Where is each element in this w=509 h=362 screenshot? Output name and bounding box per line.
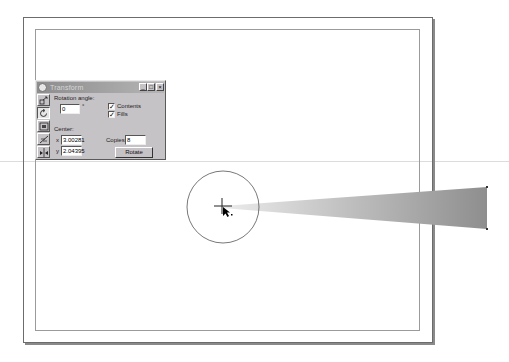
checkmark-icon: ✓: [109, 111, 115, 118]
selection-handle[interactable]: [486, 228, 488, 230]
center-label: Center:: [54, 126, 74, 133]
contents-checkbox[interactable]: ✓: [108, 103, 115, 110]
maximize-icon: □: [149, 84, 153, 90]
checkmark-icon: ✓: [109, 103, 115, 110]
skew-icon: [39, 148, 49, 157]
close-button[interactable]: ×: [156, 83, 164, 91]
scale-icon: [39, 122, 49, 131]
position-tool-button[interactable]: [37, 94, 50, 106]
size-tool-button[interactable]: [37, 133, 50, 145]
copies-input[interactable]: 8: [125, 135, 146, 145]
rotate-tool-button[interactable]: [37, 107, 50, 119]
rotate-button[interactable]: Rotate: [115, 147, 153, 158]
position-icon: [39, 96, 49, 105]
transform-dialog: Transform _ □ ×: [35, 80, 166, 160]
dialog-title: Transform: [50, 83, 83, 92]
fills-checkbox[interactable]: ✓: [108, 111, 115, 118]
selection-handle[interactable]: [486, 186, 488, 188]
maximize-button[interactable]: □: [147, 83, 155, 91]
app-icon: [38, 83, 47, 92]
fills-label: Fills: [117, 111, 128, 118]
minimize-button[interactable]: _: [139, 83, 147, 91]
x-label: x: [56, 137, 59, 144]
wedge-shape[interactable]: [222, 187, 487, 229]
scale-tool-button[interactable]: [37, 120, 50, 132]
drawing-canvas[interactable]: [0, 0, 509, 362]
rotation-angle-input[interactable]: 0: [60, 104, 80, 114]
center-x-input[interactable]: 3.00281: [61, 135, 82, 145]
contents-label: Contents: [117, 103, 141, 110]
rotation-angle-label: Rotation angle:: [54, 95, 94, 102]
copies-label: Copies:: [106, 137, 126, 144]
drawing-shapes: [0, 0, 509, 362]
rotate-icon: [39, 109, 49, 118]
transform-tool-column: [37, 94, 51, 159]
skew-tool-button[interactable]: [37, 146, 50, 158]
center-y-input[interactable]: 2.04395: [61, 146, 82, 156]
y-label: y: [56, 148, 59, 155]
minimize-icon: _: [141, 84, 144, 90]
dialog-titlebar[interactable]: Transform _ □ ×: [37, 82, 164, 93]
size-icon: [39, 135, 49, 144]
close-icon: ×: [158, 84, 162, 90]
degree-symbol: °: [82, 103, 84, 110]
